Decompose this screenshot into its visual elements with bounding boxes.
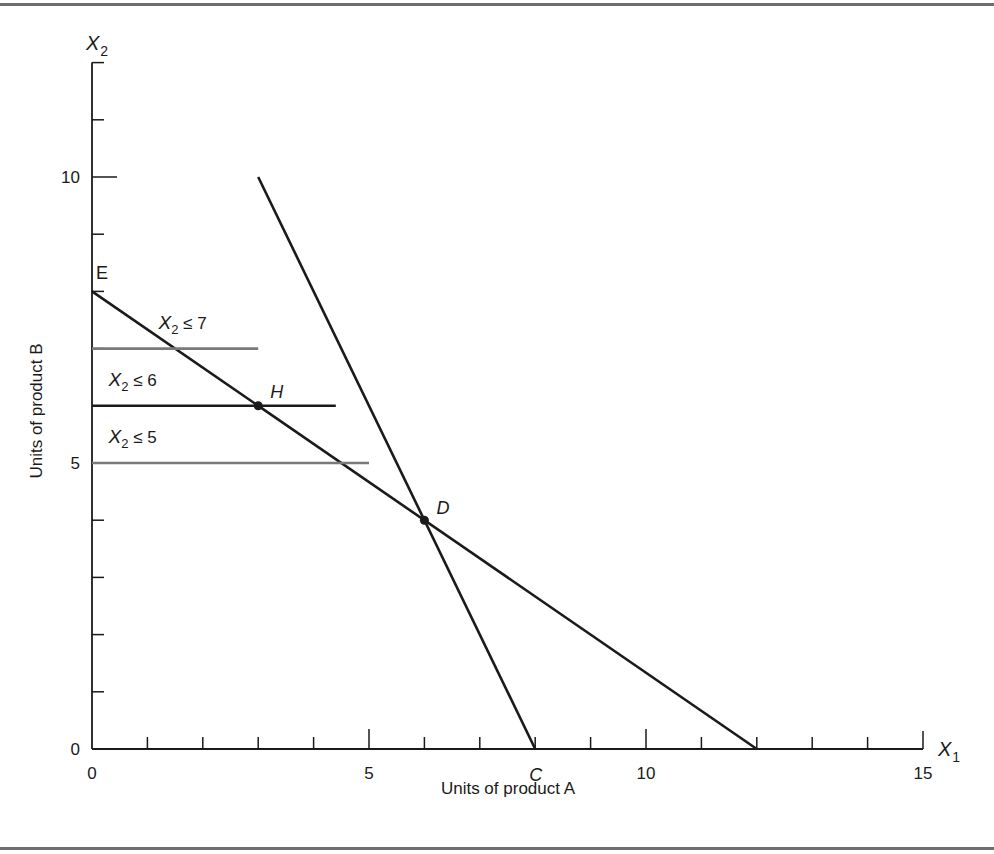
constraint-label: X2 ≤ 6 [108, 369, 157, 394]
point-label-d: D [436, 498, 449, 518]
y-tick-label: 0 [71, 740, 80, 759]
constraint-lines [92, 177, 757, 749]
x-tick-label: 5 [364, 764, 373, 783]
y-tick-label: 5 [71, 454, 80, 473]
x-tick-label: 0 [87, 764, 96, 783]
constraint-label: X2 ≤ 5 [108, 426, 157, 451]
point-marker-h [254, 401, 263, 410]
y-axis-variable: X2 [85, 32, 108, 59]
x-tick-label: 15 [914, 764, 933, 783]
point-marker-d [420, 516, 429, 525]
y-tick-label: 10 [61, 168, 80, 187]
axes: 0510150510X2X1 [61, 32, 960, 783]
constraint-label: X2 ≤ 7 [157, 312, 206, 337]
x-tick-label: 10 [637, 764, 656, 783]
linear-programming-chart: 0510150510X2X1 X2 ≤ 7X2 ≤ 6X2 ≤ 5EHDC Un… [0, 0, 994, 854]
point-label-h: H [270, 382, 284, 402]
x-axis-title: Units of product A [441, 779, 576, 798]
point-label-e: E [96, 263, 108, 283]
y-axis-title: Units of product B [27, 343, 46, 478]
x-axis-variable: X1 [937, 738, 960, 765]
